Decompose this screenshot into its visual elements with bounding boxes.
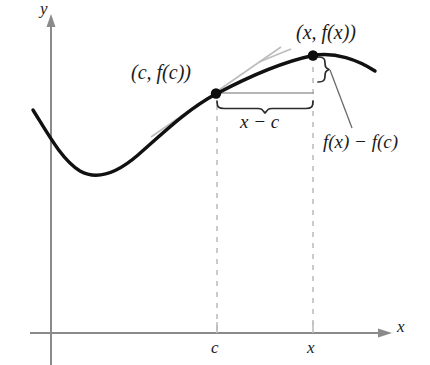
figure-canvas — [0, 0, 430, 365]
x-tick-label-c: c — [211, 339, 219, 356]
function-curve — [33, 54, 375, 175]
point-label-x: (x, f(x)) — [296, 22, 356, 42]
x-axis-label: x — [397, 318, 405, 335]
horizontal-brace-label: x − c — [240, 112, 279, 131]
vertical-brace-label: f(x) − f(c) — [323, 132, 398, 151]
leader-line-delta-y — [330, 70, 352, 128]
y-axis-label: y — [40, 0, 48, 17]
x-axis — [30, 329, 392, 338]
vertical-brace — [318, 57, 329, 82]
y-axis — [47, 14, 56, 365]
point-marker-c — [211, 88, 221, 98]
x-axis-arrow — [378, 329, 392, 338]
x-tick-label-x: x — [307, 339, 315, 356]
point-label-c: (c, f(c)) — [131, 62, 191, 82]
point-marker-x — [308, 50, 318, 60]
mean-value-theorem-figure: (c, f(c)) (x, f(x)) x − c f(x) − f(c) y … — [0, 0, 430, 365]
